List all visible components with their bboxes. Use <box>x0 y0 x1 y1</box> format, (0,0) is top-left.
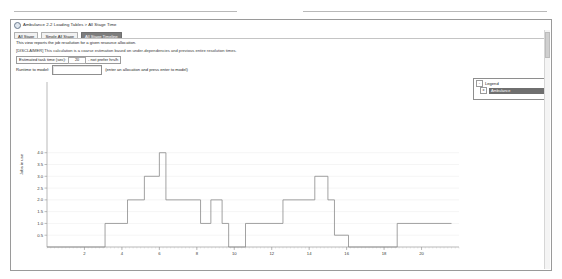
legend-item-row[interactable]: x Ambulance <box>475 87 545 94</box>
svg-text:2: 2 <box>83 251 86 256</box>
y-axis-title: Jobs in use <box>19 153 24 175</box>
chart-canvas: 0.51.01.52.02.53.03.54.0 246810121416182… <box>15 76 467 269</box>
scrollbar-thumb[interactable] <box>545 32 550 58</box>
runtime-to-model-row: Runtime to model: (enter an allocation a… <box>16 66 188 74</box>
window-title: Ambulance 2-2 Loading Tables > All Stage… <box>23 22 117 28</box>
svg-text:1.0: 1.0 <box>37 221 43 226</box>
estimate-label: Estimated task time (sec): <box>19 57 66 63</box>
chart-gridlines <box>47 153 459 236</box>
runtime-hint: (enter an allocation and press enter to … <box>105 67 188 73</box>
app-window-icon <box>14 22 21 29</box>
svg-text:12: 12 <box>269 251 274 256</box>
legend-checkbox-icon[interactable]: x <box>480 87 487 94</box>
svg-text:4.0: 4.0 <box>37 150 43 155</box>
legend-panel: - Legend x Ambulance <box>473 78 547 100</box>
tab-separator <box>14 38 550 39</box>
screenshot-root: Ambulance 2-2 Loading Tables > All Stage… <box>0 0 562 279</box>
application-window: Ambulance 2-2 Loading Tables > All Stage… <box>10 19 552 271</box>
svg-text:2.0: 2.0 <box>37 197 43 202</box>
svg-text:3.5: 3.5 <box>37 162 43 167</box>
legend-item-ambulance[interactable]: Ambulance <box>489 88 545 94</box>
top-divider-right <box>303 11 547 12</box>
svg-text:14: 14 <box>307 251 312 256</box>
legend-header-row[interactable]: - Legend <box>475 80 545 87</box>
svg-text:3.0: 3.0 <box>37 174 43 179</box>
svg-text:0.5: 0.5 <box>37 233 43 238</box>
window-titlebar: Ambulance 2-2 Loading Tables > All Stage… <box>11 20 551 30</box>
vertical-scrollbar[interactable] <box>544 30 550 269</box>
legend-title: Legend <box>485 81 499 87</box>
info-text-primary: This view reports the job resolution for… <box>16 40 136 46</box>
estimated-task-time-row: Estimated task time (sec): 20 - not pref… <box>16 56 121 64</box>
runtime-input[interactable] <box>52 65 102 75</box>
tree-collapse-icon[interactable]: - <box>476 80 483 87</box>
estimate-suffix: - not prefer hrs/h <box>88 57 118 63</box>
svg-text:10: 10 <box>232 251 237 256</box>
svg-text:20: 20 <box>419 251 424 256</box>
runtime-label: Runtime to model: <box>16 67 49 73</box>
top-divider-left <box>14 11 237 12</box>
svg-text:6: 6 <box>158 251 161 256</box>
x-axis-tick-labels: 2468101214161820 <box>83 251 424 256</box>
y-axis-tick-labels: 0.51.01.52.02.53.03.54.0 <box>37 150 43 238</box>
svg-text:4: 4 <box>121 251 124 256</box>
svg-text:8: 8 <box>196 251 199 256</box>
svg-text:16: 16 <box>344 251 349 256</box>
estimate-value: 20 <box>68 57 86 64</box>
svg-text:1.5: 1.5 <box>37 209 43 214</box>
svg-text:18: 18 <box>382 251 387 256</box>
svg-text:2.5: 2.5 <box>37 186 43 191</box>
timeline-chart: 0.51.01.52.02.53.03.54.0 246810121416182… <box>15 76 467 269</box>
info-text-disclaimer: [DISCLAIMER] This calculation is a coars… <box>16 48 237 54</box>
